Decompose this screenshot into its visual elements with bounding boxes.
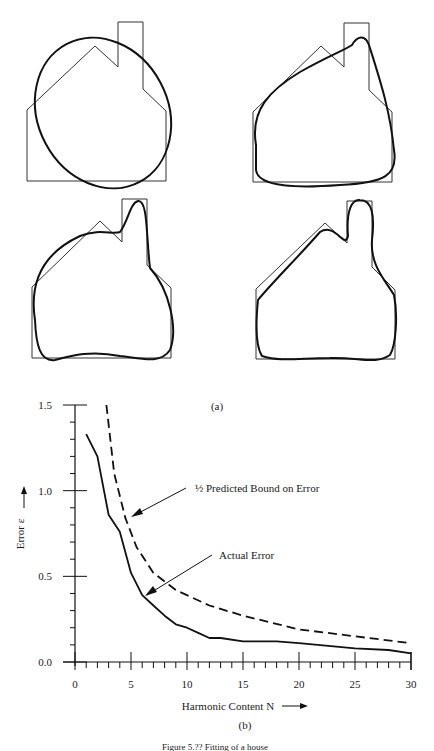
x-tick-label: 0 <box>72 678 78 690</box>
house-bottom-left <box>32 199 173 360</box>
x-tick-label: 30 <box>406 678 418 690</box>
house-top-left <box>9 14 197 213</box>
y-tick-label: 1.0 <box>38 485 52 497</box>
x-tick-label: 15 <box>238 678 250 690</box>
series-predicted-bound <box>106 405 411 643</box>
figure-canvas: (a) 0510152025300.00.51.01.5 ½ Predicted… <box>0 0 434 751</box>
chart-axes: 0510152025300.00.51.01.5 <box>38 399 417 690</box>
x-tick-label: 10 <box>182 678 194 690</box>
y-axis-label: Error ε <box>14 518 26 549</box>
chart-series <box>86 405 411 653</box>
house-bottom-right <box>256 200 396 360</box>
panel-b-label: (b) <box>239 719 252 732</box>
x-axis-label: Harmonic Content N <box>182 700 274 712</box>
house-top-right <box>253 23 395 186</box>
panel-a-label: (a) <box>211 400 224 413</box>
annotation-bound: ½ Predicted Bound on Error <box>131 482 320 517</box>
annotation-actual: Actual Error <box>145 549 275 596</box>
annotation-actual-label: Actual Error <box>219 549 275 561</box>
annotation-bound-label: ½ Predicted Bound on Error <box>195 482 320 494</box>
y-tick-label: 0.5 <box>38 570 52 582</box>
x-tick-label: 20 <box>294 678 306 690</box>
y-tick-label: 1.5 <box>38 399 52 411</box>
y-tick-label: 0.0 <box>38 656 52 668</box>
figure-caption: Figure 5.?? Fitting of a house <box>162 742 268 751</box>
x-tick-label: 5 <box>128 678 134 690</box>
y-axis-arrowhead-icon <box>21 486 27 494</box>
x-tick-label: 25 <box>350 678 362 690</box>
x-axis-arrowhead-icon <box>300 703 308 709</box>
